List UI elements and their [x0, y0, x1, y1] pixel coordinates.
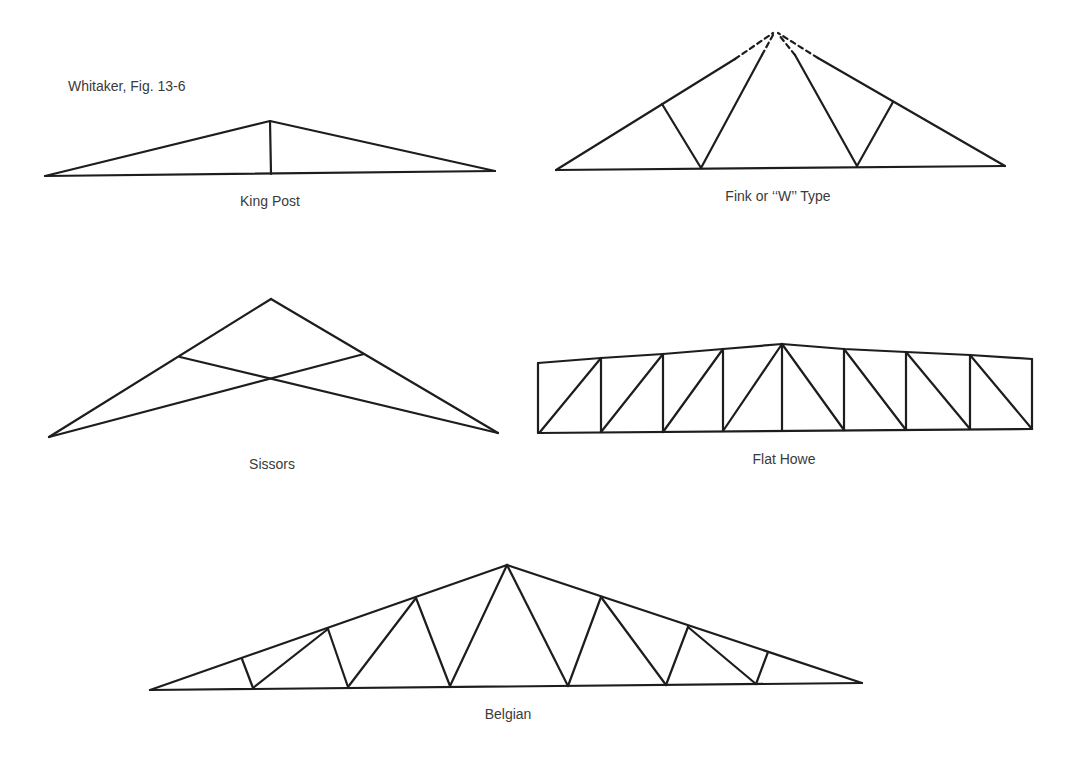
top-chord-right: [507, 565, 862, 683]
web: [328, 629, 348, 687]
diagonal: [723, 344, 782, 431]
web: [253, 629, 328, 688]
web-left-short: [662, 104, 701, 168]
top-chord-left: [49, 299, 271, 437]
bottom-chord: [538, 429, 1032, 433]
diagonal: [844, 349, 906, 430]
truss-diagram: [0, 0, 1085, 760]
web: [450, 565, 507, 686]
fink-label: Fink or ‘‘W’’ Type: [725, 188, 830, 204]
sissors-truss: [49, 299, 498, 437]
king-post-truss: [45, 121, 495, 176]
belgian-label: Belgian: [485, 706, 532, 722]
diagonal: [663, 349, 723, 432]
king-post: [270, 121, 271, 174]
top-chord-right-faded: [778, 33, 818, 58]
web: [568, 597, 601, 686]
sissors-label: Sissors: [249, 456, 295, 472]
diagonal: [906, 352, 970, 429]
top-chord-left: [45, 121, 270, 176]
diagonal: [601, 354, 663, 432]
web: [666, 627, 688, 685]
diagonal: [970, 355, 1032, 429]
web: [348, 598, 416, 687]
top-chord-right: [271, 299, 498, 433]
web-right-long: [795, 55, 857, 166]
web: [756, 652, 768, 684]
diagonal: [782, 344, 844, 430]
web: [242, 659, 253, 688]
bottom-chord-right: [180, 357, 498, 433]
fink-truss: [556, 33, 1005, 170]
flat-howe-label: Flat Howe: [752, 451, 815, 467]
web: [416, 598, 450, 686]
web-left-long: [701, 55, 762, 168]
bottom-chord: [556, 166, 1005, 170]
flat-howe-truss: [538, 344, 1032, 433]
bottom-chord-left: [49, 354, 364, 437]
king-post-label: King Post: [240, 193, 300, 209]
belgian-truss: [150, 565, 862, 690]
web: [601, 597, 666, 685]
top-chord-left: [150, 565, 507, 690]
top-chord-right: [270, 121, 495, 171]
diagonal: [540, 358, 601, 432]
web-right-short: [857, 102, 893, 166]
top-chord-right: [818, 58, 1005, 166]
